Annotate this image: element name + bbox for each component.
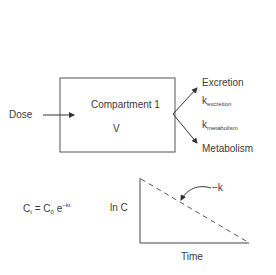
slope-arrow [181, 187, 211, 200]
metabolism-arrow [173, 114, 197, 143]
ct-subscript: t [30, 209, 32, 215]
dose-label: Dose [9, 109, 32, 120]
k-subscript: excretion [207, 101, 231, 107]
compartment-box [60, 78, 175, 152]
compartment-volume: V [113, 123, 120, 134]
equals-sign: = [35, 203, 41, 214]
diagram-canvas [0, 0, 276, 275]
k-metabolism-label: kmetabolism [202, 119, 238, 131]
k-excretion-label: kexcretion [202, 95, 231, 107]
y-axis-label: ln C [110, 202, 128, 213]
slope-label: −k [212, 182, 223, 193]
x-axis-label: Time [181, 251, 203, 262]
metabolism-label: Metabolism [202, 143, 253, 154]
compartment-title: Compartment 1 [91, 99, 160, 110]
decay-equation: Ct = C0 e−kt [23, 202, 70, 215]
k-subscript: metabolism [207, 125, 238, 131]
exponent: −kt [62, 202, 70, 208]
c0-base: C [43, 203, 50, 214]
c0-subscript: 0 [51, 209, 54, 215]
excretion-arrow [173, 88, 197, 114]
excretion-label: Excretion [202, 77, 244, 88]
